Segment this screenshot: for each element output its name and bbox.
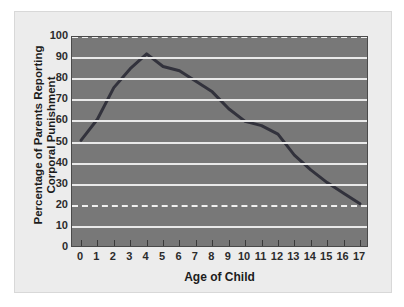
y-axis-title-line-2: Corporal Punishment	[45, 20, 58, 250]
x-axis-tick-labels: 01234567891011121314151617	[0, 0, 404, 307]
y-axis-title: Percentage of Parents Reporting Corporal…	[32, 20, 58, 250]
y-axis-title-line-1: Percentage of Parents Reporting	[32, 46, 44, 225]
chart-figure: 0102030405060708090100 01234567891011121…	[0, 0, 404, 307]
x-tick-label-17: 17	[349, 250, 369, 262]
x-axis-title: Age of Child	[71, 270, 368, 284]
